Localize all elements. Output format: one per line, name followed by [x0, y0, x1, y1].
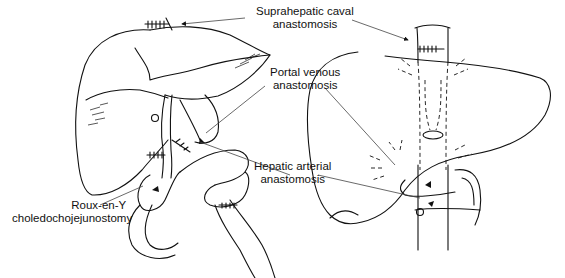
label-line: Hepatic arterial: [254, 160, 331, 173]
label-line: choledochojejunostomy: [12, 212, 132, 225]
label-line: Suprahepatic caval: [256, 5, 354, 18]
label-line: anastomosis: [270, 79, 340, 92]
label-line: anastomosis: [254, 173, 331, 186]
label-line: Portal venous: [270, 66, 340, 79]
suprahepatic-caval-label: Suprahepatic caval anastomosis: [256, 5, 354, 31]
portal-venous-label: Portal venous anastomosis: [270, 66, 340, 92]
roux-en-y-label: Roux-en-Y choledochojejunostomy: [12, 199, 132, 225]
liver-transplant-diagram: Suprahepatic caval anastomosis Portal ve…: [0, 0, 565, 278]
hepatic-arterial-label: Hepatic arterial anastomosis: [254, 160, 331, 186]
label-line: anastomosis: [256, 18, 354, 31]
right-liver: [307, 25, 550, 250]
illustration: [0, 0, 565, 278]
left-liver: [76, 18, 275, 278]
label-line: Roux-en-Y: [12, 199, 132, 212]
